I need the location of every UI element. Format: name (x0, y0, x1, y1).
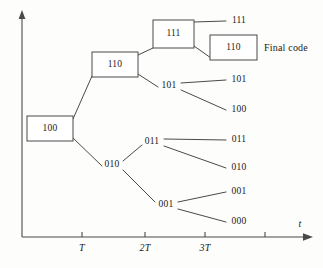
terminal-label-101: 101 (232, 75, 247, 85)
edge-110-111 (138, 48, 153, 55)
terminal-label-100: 100 (232, 105, 247, 115)
x-tick-label-T: T (79, 243, 85, 253)
box-label-stage2-111: 111 (166, 29, 180, 39)
x-tick-label-3T: 3T (200, 243, 211, 253)
diagram-canvas (0, 0, 323, 268)
box-label-root-100: 100 (43, 124, 58, 134)
box-label-final-110: 110 (226, 43, 241, 53)
x-axis-ticks (82, 232, 265, 237)
terminal-label-000: 000 (232, 217, 247, 227)
terminal-label-010: 010 (232, 163, 247, 173)
edge-011-010 (164, 146, 226, 168)
edge-001-001 (178, 192, 226, 202)
edge-100-110 (73, 76, 92, 119)
x-tick-label-2T: 2T (140, 243, 151, 253)
edge-011-011 (164, 139, 226, 140)
edge-010-001 (123, 170, 155, 202)
box-label-stage1-110: 110 (108, 60, 123, 70)
node-label-011: 011 (145, 137, 160, 147)
y-axis-arrow-icon (19, 10, 26, 19)
terminal-label-001: 001 (232, 187, 247, 197)
tree-edges (73, 21, 226, 222)
terminal-label-011: 011 (232, 135, 247, 145)
node-label-001: 001 (159, 200, 174, 210)
edge-101-101 (181, 80, 226, 83)
terminal-label-111: 111 (232, 16, 246, 26)
edge-010-011 (123, 145, 142, 161)
edge-001-000 (178, 209, 226, 222)
x-axis-arrow-icon (303, 233, 313, 241)
x-axis-label: t (299, 219, 302, 229)
edge-111-111 (194, 21, 226, 22)
final-code-annotation: Final code (264, 43, 308, 53)
edge-100-010 (73, 138, 102, 166)
edge-101-100 (181, 90, 226, 110)
node-label-101: 101 (162, 81, 177, 91)
edge-110-101 (138, 74, 158, 87)
edge-111-110final (194, 46, 211, 58)
node-label-010: 010 (105, 160, 120, 170)
code-tree-figure: 100 110 111 110 101 010 011 001 111 101 … (0, 0, 323, 268)
